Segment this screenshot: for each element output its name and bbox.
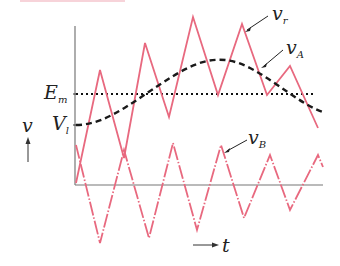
vb-arrowhead-icon <box>224 148 230 153</box>
x-axis-label: t <box>222 236 230 255</box>
vr-label: vr <box>272 4 288 26</box>
y-arrow-head-icon <box>26 137 31 144</box>
vr-arrowhead-icon <box>245 27 251 32</box>
vb-label: vB <box>248 128 266 150</box>
va-label: vA <box>286 38 304 60</box>
vb-pointer <box>227 140 247 151</box>
vb-waveform <box>76 143 323 243</box>
vl-label: Vl <box>52 114 69 136</box>
va-arrowhead-icon <box>261 63 267 68</box>
y-axis-label: v <box>22 116 33 135</box>
vr-waveform <box>76 17 318 183</box>
em-label: Em <box>44 83 67 105</box>
va-pointer <box>264 50 283 66</box>
x-arrow-head-icon <box>212 243 219 248</box>
